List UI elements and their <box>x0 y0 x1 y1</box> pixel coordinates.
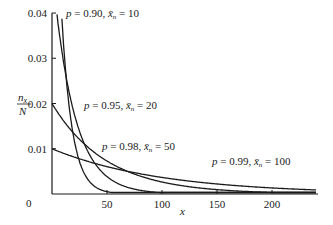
x-tick-label: 50 <box>102 198 114 210</box>
curve-p-0.98 <box>52 104 316 193</box>
y-tick-label: 0.01 <box>28 143 47 155</box>
chart: 50100150200 0.010.020.030.04 p = 0.90, x… <box>0 0 333 225</box>
curve-label-p-0.90: p = 0.90, x̄n = 10 <box>65 7 140 21</box>
curve-label-p-0.98: p = 0.98, x̄n = 50 <box>101 140 176 154</box>
y-tick-label: 0.04 <box>28 7 48 19</box>
y-tick-label: 0.03 <box>28 52 48 64</box>
x-axis-label: x <box>179 205 185 217</box>
origin-label: 0 <box>26 197 32 209</box>
y-tick-label: 0.02 <box>28 98 47 110</box>
curve-labels: p = 0.90, x̄n = 10p = 0.95, x̄n = 20p = … <box>65 7 291 169</box>
y-axis-label-num: nx <box>18 91 28 105</box>
y-axis-label-den: N <box>18 105 27 117</box>
y-axis-label: nx N <box>17 91 31 117</box>
x-tick-label: 100 <box>154 198 171 210</box>
x-tick-label: 200 <box>264 198 281 210</box>
curve-label-p-0.99: p = 0.99, x̄n = 100 <box>211 155 291 169</box>
x-tick-label: 150 <box>209 198 226 210</box>
curve-label-p-0.95: p = 0.95, x̄n = 20 <box>83 99 158 113</box>
